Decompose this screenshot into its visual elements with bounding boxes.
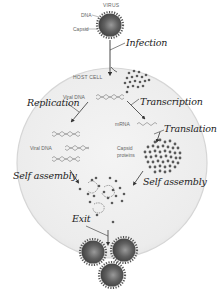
- host-cell-label: HOST CELL: [73, 75, 103, 80]
- step-transcription: Transcription: [140, 97, 203, 107]
- capsid-label: Capsid: [73, 27, 89, 32]
- virus-icon: [97, 12, 123, 38]
- mrna-label: mRNA: [115, 122, 130, 127]
- step-self-assembly-right: Self assembly: [143, 177, 207, 187]
- step-replication: Replication: [27, 98, 79, 108]
- capsid-proteins-label-1: Capsid: [117, 146, 133, 151]
- step-translation: Translation: [164, 124, 217, 134]
- step-infection: Infection: [126, 38, 167, 48]
- step-self-assembly-left: Self assembly: [13, 171, 77, 181]
- capsid-proteins-label-2: proteins: [117, 153, 135, 158]
- viral-dna-label-left: Viral DNA: [30, 146, 52, 151]
- virus-label: VIRUS: [103, 3, 119, 8]
- step-exit: Exit: [72, 214, 90, 224]
- released-virus-3: [99, 262, 125, 288]
- dna-label: DNA: [81, 13, 92, 18]
